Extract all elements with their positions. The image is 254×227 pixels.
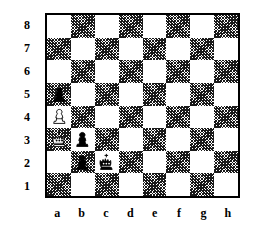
board-square-h1[interactable] [214,173,238,196]
board-square-a6[interactable] [47,60,71,83]
board-square-a4[interactable]: ♙ [47,106,71,129]
file-label-f: f [167,203,191,223]
board-square-g6[interactable] [190,60,214,83]
board-square-a3[interactable]: ♔ [47,128,71,151]
board-square-h2[interactable] [214,151,238,174]
white-king-icon: ♔ [47,128,71,151]
board-square-b1[interactable] [71,173,95,196]
board-square-c7[interactable] [95,38,119,61]
board-square-h4[interactable] [214,106,238,129]
board-square-e5[interactable] [143,83,167,106]
black-pawn-icon: ♟ [71,151,95,174]
board-square-b5[interactable] [71,83,95,106]
board-square-d7[interactable] [119,38,143,61]
board-square-f7[interactable] [166,38,190,61]
file-label-c: c [94,203,118,223]
board-square-h6[interactable] [214,60,238,83]
piece-glyph: ♙ [58,116,59,117]
rank-label-4: 4 [14,106,40,129]
board-square-h5[interactable] [214,83,238,106]
board-square-g7[interactable] [190,38,214,61]
board-square-f8[interactable] [166,15,190,38]
board-square-d1[interactable] [119,173,143,196]
board-square-h8[interactable] [214,15,238,38]
black-pawn-icon: ♟ [47,83,71,106]
chess-diagram: 8 7 6 5 4 3 2 1 ♟♙♔♟♟♚ a b c d e f g h [0,0,254,227]
board-square-b2[interactable]: ♟ [71,151,95,174]
white-pawn-icon: ♙ [47,106,71,129]
board-square-a1[interactable] [47,173,71,196]
board-square-d3[interactable] [119,128,143,151]
board-square-c6[interactable] [95,60,119,83]
board-square-b3[interactable]: ♟ [71,128,95,151]
file-label-g: g [191,203,215,223]
board-square-d5[interactable] [119,83,143,106]
piece-glyph: ♟ [82,162,83,163]
board-square-f4[interactable] [166,106,190,129]
board-square-a7[interactable] [47,38,71,61]
board-square-g8[interactable] [190,15,214,38]
board-square-g3[interactable] [190,128,214,151]
board-square-e2[interactable] [143,151,167,174]
board-square-d8[interactable] [119,15,143,38]
board-square-c4[interactable] [95,106,119,129]
piece-glyph: ♔ [58,139,59,140]
board-square-c5[interactable] [95,83,119,106]
board-square-d6[interactable] [119,60,143,83]
board-square-c8[interactable] [95,15,119,38]
piece-glyph: ♚ [106,162,107,163]
board-square-a5[interactable]: ♟ [47,83,71,106]
rank-label-3: 3 [14,129,40,152]
board-square-c1[interactable] [95,173,119,196]
board-square-g5[interactable] [190,83,214,106]
board-square-c3[interactable] [95,128,119,151]
board-square-b6[interactable] [71,60,95,83]
file-label-a: a [45,203,69,223]
black-king-icon: ♚ [95,151,119,174]
board-square-e4[interactable] [143,106,167,129]
board-square-b4[interactable] [71,106,95,129]
board-square-e1[interactable] [143,173,167,196]
rank-label-7: 7 [14,36,40,59]
rank-label-column: 8 7 6 5 4 3 2 1 [14,13,40,198]
black-pawn-icon: ♟ [71,128,95,151]
board-square-g2[interactable] [190,151,214,174]
board-grid: ♟♙♔♟♟♚ [47,15,238,196]
rank-label-8: 8 [14,13,40,36]
board-square-d2[interactable] [119,151,143,174]
board-square-h3[interactable] [214,128,238,151]
board-square-f6[interactable] [166,60,190,83]
file-label-row: a b c d e f g h [45,203,240,223]
board-square-a2[interactable] [47,151,71,174]
board-square-f1[interactable] [166,173,190,196]
board-square-g4[interactable] [190,106,214,129]
file-label-h: h [216,203,240,223]
file-label-e: e [143,203,167,223]
file-label-d: d [118,203,142,223]
board-square-e6[interactable] [143,60,167,83]
board-square-b7[interactable] [71,38,95,61]
rank-label-1: 1 [14,175,40,198]
rank-label-5: 5 [14,82,40,105]
piece-glyph: ♟ [82,139,83,140]
board-square-e7[interactable] [143,38,167,61]
board-square-d4[interactable] [119,106,143,129]
board-square-g1[interactable] [190,173,214,196]
rank-label-6: 6 [14,59,40,82]
rank-label-2: 2 [14,152,40,175]
board-square-f5[interactable] [166,83,190,106]
board-square-h7[interactable] [214,38,238,61]
board-square-b8[interactable] [71,15,95,38]
file-label-b: b [69,203,93,223]
board-square-f3[interactable] [166,128,190,151]
piece-glyph: ♟ [58,94,59,95]
board-square-e3[interactable] [143,128,167,151]
board-square-f2[interactable] [166,151,190,174]
chess-board: ♟♙♔♟♟♚ [45,13,240,198]
board-square-a8[interactable] [47,15,71,38]
board-square-e8[interactable] [143,15,167,38]
board-square-c2[interactable]: ♚ [95,151,119,174]
